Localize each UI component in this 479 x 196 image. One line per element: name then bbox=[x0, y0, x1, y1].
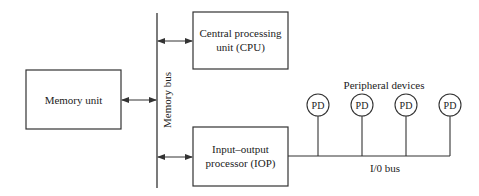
cpu-label-line2: unit (CPU) bbox=[216, 41, 265, 54]
cpu-block: Central processing unit (CPU) bbox=[193, 12, 288, 69]
pd-label: PD bbox=[400, 100, 413, 111]
io-bus-label: I/0 bus bbox=[370, 162, 400, 174]
peripheral-device-2: PD bbox=[351, 94, 373, 156]
memory-unit-block: Memory unit bbox=[26, 70, 121, 129]
iop-label-line2: processor (IOP) bbox=[206, 157, 276, 170]
block-diagram: Memory unit Memory bus Central processin… bbox=[0, 0, 479, 196]
pd-label: PD bbox=[312, 100, 325, 111]
peripheral-devices-label: Peripheral devices bbox=[344, 79, 425, 91]
peripheral-device-4: PD bbox=[439, 94, 461, 156]
peripheral-device-3: PD bbox=[395, 94, 417, 156]
iop-block: Input–output processor (IOP) bbox=[193, 127, 288, 186]
cpu-label-line1: Central processing bbox=[199, 27, 282, 39]
pd-label: PD bbox=[444, 100, 457, 111]
memory-unit-label: Memory unit bbox=[45, 94, 103, 106]
peripheral-device-1: PD bbox=[307, 94, 329, 156]
pd-label: PD bbox=[356, 100, 369, 111]
iop-label-line1: Input–output bbox=[212, 143, 269, 155]
io-bus: I/0 bus bbox=[288, 156, 450, 174]
memory-bus-label: Memory bus bbox=[161, 72, 173, 128]
memory-bus: Memory bus bbox=[157, 13, 173, 188]
